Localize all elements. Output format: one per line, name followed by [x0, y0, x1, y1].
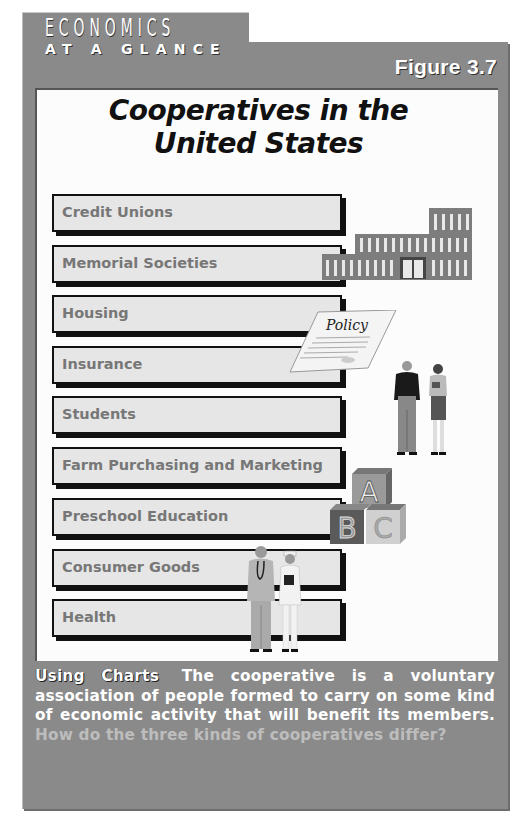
category-label: Housing [62, 305, 129, 321]
svg-text:Policy: Policy [325, 317, 369, 333]
policy-document-icon: Policy [288, 310, 398, 376]
category-label: Students [62, 406, 136, 422]
chart-title-line2: United States [0, 127, 517, 160]
building-icon [322, 208, 474, 280]
category-box-farm: Farm Purchasing and Marketing [52, 447, 342, 485]
category-box-memorial-societies: Memorial Societies [52, 245, 342, 283]
students-icon [392, 360, 458, 458]
caption-question: How do the three kinds of cooperatives d… [35, 726, 447, 744]
category-box-preschool: Preschool Education [52, 498, 342, 536]
doctor-nurse-icon [246, 545, 308, 657]
category-label: Health [62, 609, 116, 625]
category-label: Consumer Goods [62, 559, 200, 575]
abc-blocks-icon: A B C [328, 466, 408, 548]
chart-title-line1: Cooperatives in the [0, 94, 517, 127]
svg-text:B: B [337, 512, 356, 545]
category-label: Credit Unions [62, 204, 173, 220]
brand-title: ECONOMICS [45, 14, 175, 41]
figure-label: Figure 3.7 [395, 55, 497, 79]
caption: Using Charts The cooperative is a volunt… [35, 667, 495, 745]
category-label: Insurance [62, 356, 142, 372]
brand-subtitle: AT A GLANCE [45, 41, 227, 57]
chart-title: Cooperatives in the United States [0, 94, 517, 160]
category-label: Memorial Societies [62, 255, 217, 271]
svg-text:C: C [373, 512, 393, 545]
category-box-students: Students [52, 396, 342, 434]
category-label: Farm Purchasing and Marketing [62, 457, 323, 473]
caption-lead: Using Charts [35, 667, 159, 685]
category-box-credit-unions: Credit Unions [52, 194, 342, 232]
category-label: Preschool Education [62, 508, 228, 524]
